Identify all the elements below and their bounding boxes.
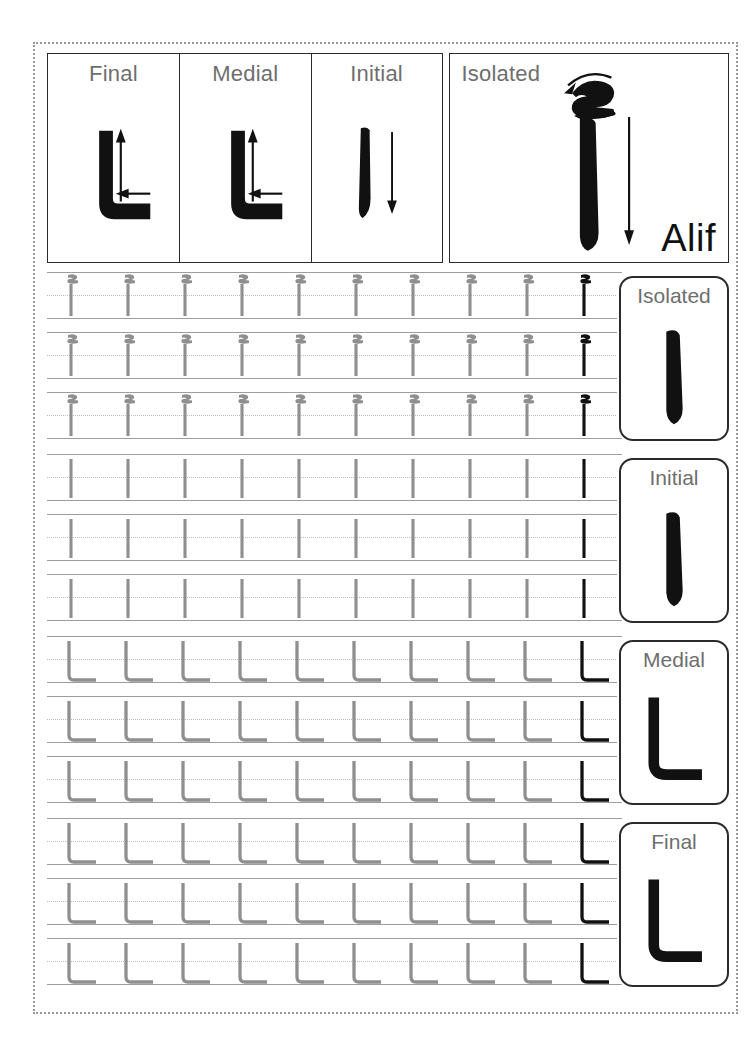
trace-glyph-final[interactable] [104, 818, 161, 865]
trace-glyph-initial[interactable] [446, 514, 503, 561]
trace-glyph-initial[interactable] [161, 454, 218, 501]
trace-glyph-isolated[interactable] [503, 332, 560, 379]
trace-glyph-final[interactable] [218, 878, 275, 925]
trace-glyph-final[interactable] [218, 938, 275, 985]
trace-glyph-medial[interactable] [446, 696, 503, 743]
trace-glyph-initial[interactable] [275, 574, 332, 621]
trace-glyph-isolated[interactable] [161, 332, 218, 379]
trace-glyph-final[interactable] [503, 938, 560, 985]
trace-glyph-medial[interactable] [104, 756, 161, 803]
trace-glyph-final[interactable] [218, 818, 275, 865]
trace-glyph-initial[interactable] [104, 514, 161, 561]
trace-glyph-initial[interactable] [218, 574, 275, 621]
trace-glyph-isolated[interactable] [503, 392, 560, 439]
trace-glyph-medial[interactable] [104, 636, 161, 683]
trace-glyph-final[interactable] [104, 878, 161, 925]
trace-glyph-medial[interactable] [332, 696, 389, 743]
trace-glyph-final[interactable] [104, 938, 161, 985]
trace-glyph-initial[interactable] [275, 514, 332, 561]
trace-glyph-isolated[interactable] [389, 272, 446, 319]
trace-glyph-final[interactable] [47, 938, 104, 985]
trace-glyph-final[interactable] [47, 818, 104, 865]
trace-glyph-final[interactable] [446, 818, 503, 865]
trace-glyph-isolated[interactable] [503, 272, 560, 319]
trace-row[interactable] [47, 272, 622, 319]
trace-glyph-medial[interactable] [218, 756, 275, 803]
trace-glyph-isolated[interactable] [275, 272, 332, 319]
trace-glyph-initial[interactable] [332, 514, 389, 561]
trace-glyph-final[interactable] [446, 878, 503, 925]
trace-row[interactable] [47, 574, 622, 621]
trace-glyph-medial[interactable] [446, 636, 503, 683]
trace-row[interactable] [47, 818, 622, 865]
trace-glyph-final[interactable] [503, 818, 560, 865]
trace-glyph-final[interactable] [161, 938, 218, 985]
trace-glyph-isolated[interactable] [47, 272, 104, 319]
trace-row[interactable] [47, 454, 622, 501]
trace-glyph-isolated[interactable] [332, 332, 389, 379]
trace-glyph-isolated[interactable] [332, 272, 389, 319]
trace-glyph-initial[interactable] [161, 514, 218, 561]
trace-glyph-initial[interactable] [332, 574, 389, 621]
trace-glyph-final[interactable] [47, 878, 104, 925]
trace-glyph-isolated[interactable] [47, 392, 104, 439]
trace-glyph-initial[interactable] [161, 574, 218, 621]
trace-glyph-isolated[interactable] [446, 392, 503, 439]
trace-glyph-medial[interactable] [161, 696, 218, 743]
trace-glyph-medial[interactable] [218, 636, 275, 683]
trace-row[interactable] [47, 878, 622, 925]
trace-glyph-final[interactable] [275, 878, 332, 925]
trace-glyph-initial[interactable] [389, 514, 446, 561]
trace-glyph-medial[interactable] [446, 756, 503, 803]
trace-glyph-initial[interactable] [503, 514, 560, 561]
trace-glyph-isolated[interactable] [218, 272, 275, 319]
trace-glyph-initial[interactable] [503, 574, 560, 621]
trace-glyph-initial[interactable] [47, 514, 104, 561]
trace-row[interactable] [47, 636, 622, 683]
trace-glyph-initial[interactable] [47, 574, 104, 621]
trace-glyph-isolated[interactable] [104, 272, 161, 319]
trace-row[interactable] [47, 514, 622, 561]
trace-glyph-medial[interactable] [47, 696, 104, 743]
trace-glyph-final[interactable] [503, 878, 560, 925]
trace-glyph-isolated[interactable] [446, 272, 503, 319]
trace-glyph-medial[interactable] [275, 696, 332, 743]
trace-glyph-final[interactable] [389, 818, 446, 865]
trace-glyph-isolated[interactable] [104, 392, 161, 439]
trace-glyph-isolated[interactable] [161, 272, 218, 319]
trace-glyph-medial[interactable] [503, 636, 560, 683]
trace-glyph-final[interactable] [389, 938, 446, 985]
trace-glyph-initial[interactable] [503, 454, 560, 501]
trace-glyph-medial[interactable] [389, 696, 446, 743]
trace-glyph-medial[interactable] [218, 696, 275, 743]
trace-glyph-medial[interactable] [47, 636, 104, 683]
trace-glyph-initial[interactable] [446, 574, 503, 621]
trace-row[interactable] [47, 332, 622, 379]
trace-glyph-medial[interactable] [275, 636, 332, 683]
trace-row[interactable] [47, 938, 622, 985]
trace-glyph-initial[interactable] [389, 454, 446, 501]
trace-glyph-medial[interactable] [104, 696, 161, 743]
trace-glyph-final[interactable] [161, 878, 218, 925]
trace-glyph-initial[interactable] [104, 574, 161, 621]
trace-glyph-medial[interactable] [332, 756, 389, 803]
trace-glyph-isolated[interactable] [104, 332, 161, 379]
trace-glyph-final[interactable] [161, 818, 218, 865]
trace-row[interactable] [47, 696, 622, 743]
trace-glyph-isolated[interactable] [161, 392, 218, 439]
trace-glyph-final[interactable] [275, 938, 332, 985]
trace-glyph-isolated[interactable] [218, 392, 275, 439]
trace-row[interactable] [47, 756, 622, 803]
trace-glyph-final[interactable] [332, 878, 389, 925]
trace-glyph-isolated[interactable] [47, 332, 104, 379]
trace-glyph-initial[interactable] [104, 454, 161, 501]
trace-glyph-final[interactable] [446, 938, 503, 985]
trace-glyph-medial[interactable] [275, 756, 332, 803]
trace-glyph-isolated[interactable] [218, 332, 275, 379]
trace-glyph-isolated[interactable] [275, 332, 332, 379]
trace-glyph-initial[interactable] [389, 574, 446, 621]
trace-glyph-isolated[interactable] [389, 332, 446, 379]
trace-glyph-initial[interactable] [446, 454, 503, 501]
trace-glyph-medial[interactable] [332, 636, 389, 683]
trace-glyph-initial[interactable] [275, 454, 332, 501]
